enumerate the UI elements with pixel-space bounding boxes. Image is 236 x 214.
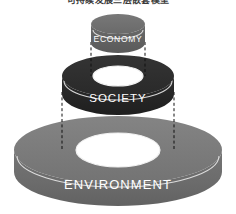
society-top — [62, 55, 174, 97]
economy-label: ECONOMY — [94, 34, 143, 44]
economy-top — [91, 14, 145, 34]
environment-top — [14, 116, 222, 184]
page-title: 可持续发展三层嵌套模型 — [0, 0, 236, 5]
society-hole-outline — [93, 66, 143, 86]
environment-hole-outline — [76, 133, 160, 167]
layer-economy[interactable]: ECONOMY — [91, 14, 145, 53]
nested-rings-diagram: ENVIRONMENT SOCIETY ECONOMY — [0, 0, 236, 214]
environment-label: ENVIRONMENT — [64, 177, 172, 192]
title-strip: 可持续发展三层嵌套模型 — [0, 0, 236, 7]
layer-society[interactable]: SOCIETY — [62, 55, 174, 115]
society-label: SOCIETY — [89, 92, 146, 104]
diagram-canvas: 可持续发展三层嵌套模型 — [0, 0, 236, 214]
layer-environment[interactable]: ENVIRONMENT — [14, 116, 222, 206]
